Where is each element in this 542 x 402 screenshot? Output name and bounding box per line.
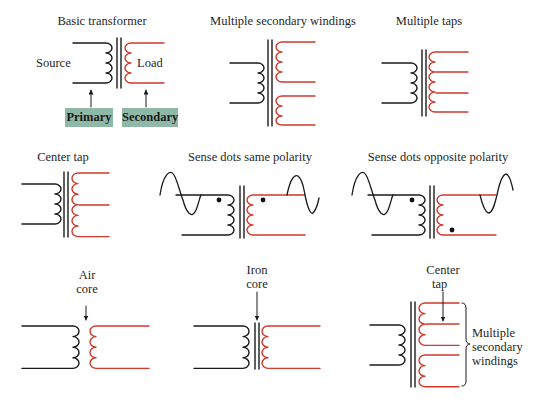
secondary-winding-2 [419,355,459,387]
secondary-winding [262,326,320,368]
sense-dots-opposite-polarity-symbol [352,172,513,238]
air-core-annotation-line2: core [76,283,98,296]
primary-winding [176,195,234,235]
sense-dot-secondary [450,228,455,233]
secondary-winding [429,52,468,112]
sense-dot-primary [217,198,222,203]
secondary-winding [90,326,149,368]
air-core-annotation-line1: Air [79,269,96,282]
panel-title-sense-dots-opposite: Sense dots opposite polarity [368,151,509,164]
primary-winding [194,326,249,368]
center-tap-annotation-line1: Center [426,264,459,277]
output-sine-wave [480,174,513,213]
panel-title-center-tap: Center tap [37,151,89,164]
center-tap-symbol [22,172,109,237]
panel-title-sense-dots-same: Sense dots same polarity [188,151,312,164]
primary-label-box: Primary [65,108,113,127]
panel-title-multiple-taps: Multiple taps [396,15,462,28]
secondary-winding-2 [276,96,315,125]
load-label: Load [137,57,163,70]
multiple-secondary-windings-symbol [230,40,315,126]
secondary-winding [437,195,496,235]
primary-winding [73,43,112,83]
sense-dot-primary [410,198,415,203]
multiple-taps-symbol [382,50,468,116]
transformer-diagram-figure: Basic transformer Source Load Primary Se… [0,0,542,402]
secondary-label-box: Secondary [122,108,178,127]
center-tap-multiple-secondary-symbol [370,292,470,387]
brace [462,303,470,386]
sense-dots-same-polarity-symbol [160,172,319,238]
source-label: Source [36,57,71,70]
panel-title-basic-transformer: Basic transformer [57,15,146,28]
brace-label-line3: windings [472,355,518,368]
secondary-winding-1 [276,42,315,82]
panel-title-multiple-secondary-windings: Multiple secondary windings [210,15,356,28]
primary-winding [368,195,425,235]
air-core-symbol [22,306,149,368]
primary-winding [22,184,61,224]
iron-core-annotation-line2: core [246,278,268,291]
sense-dot-secondary [261,198,266,203]
primary-winding [382,63,417,103]
input-sine-wave [352,172,393,214]
brace-label-line1: Multiple [472,327,515,340]
primary-winding [22,326,79,368]
basic-transformer-symbol [73,38,164,107]
input-sine-wave [160,172,201,214]
primary-winding [370,325,405,365]
center-tap-annotation-line2: tap [432,278,447,291]
secondary-winding [247,195,305,235]
brace-label-line2: secondary [472,341,523,354]
diagram-canvas [0,0,542,402]
iron-core-annotation-line1: Iron [247,264,268,277]
iron-core-symbol [194,292,320,369]
primary-winding [230,63,264,103]
